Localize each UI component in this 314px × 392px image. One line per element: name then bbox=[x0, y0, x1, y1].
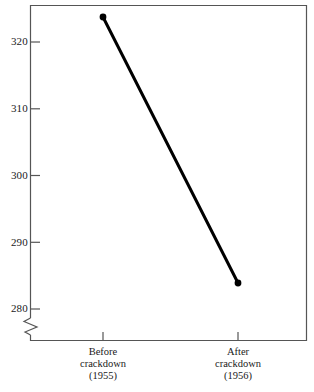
x-axis-tick-label-line1: After bbox=[215, 346, 261, 358]
x-axis-tick-label-before-crackdown: Before crackdown (1955) bbox=[80, 346, 126, 383]
x-axis-tick-label-after-crackdown: After crackdown (1956) bbox=[215, 346, 261, 383]
data-line bbox=[103, 17, 238, 283]
y-axis-tick-label: 290 bbox=[0, 237, 28, 248]
data-point-marker[interactable] bbox=[100, 14, 107, 21]
x-axis-tick-label-line2: crackdown bbox=[80, 358, 126, 370]
x-axis-tick-label-line3: (1955) bbox=[80, 370, 126, 382]
y-axis-tick-label: 320 bbox=[0, 36, 28, 47]
y-axis-tick-label: 280 bbox=[0, 303, 28, 314]
y-axis-tick-label: 310 bbox=[0, 103, 28, 114]
line-chart-svg bbox=[0, 0, 314, 392]
y-axis-ticks bbox=[31, 42, 40, 309]
chart-figure: 320 310 300 290 280 Before crackdown (19… bbox=[0, 0, 314, 392]
y-axis-tick-label: 300 bbox=[0, 170, 28, 181]
x-axis-tick-label-line2: crackdown bbox=[215, 358, 261, 370]
x-axis-tick-label-line3: (1956) bbox=[215, 370, 261, 382]
data-point-marker[interactable] bbox=[235, 280, 242, 287]
x-axis-tick-label-line1: Before bbox=[80, 346, 126, 358]
y-axis-break-icon bbox=[24, 318, 37, 335]
x-axis-ticks bbox=[103, 332, 238, 340]
plot-frame bbox=[30, 5, 307, 341]
